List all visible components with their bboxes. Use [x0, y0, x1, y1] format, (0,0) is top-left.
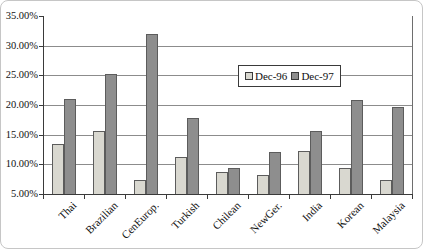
x-axis-tick — [371, 195, 372, 199]
y-axis-label-5: 5.00% — [0, 188, 38, 200]
bar-dec-97-thai — [64, 99, 76, 194]
bar-dec-97-chilean — [228, 168, 240, 194]
bar-dec-97-turkish — [187, 118, 199, 194]
bar-dec-96-malaysia — [380, 180, 392, 194]
bar-dec-96-india — [298, 151, 310, 194]
legend-entry-dec-97: Dec-97 — [291, 70, 333, 82]
x-label-brazilian: Brazilian — [82, 199, 119, 236]
bar-dec-96-brazilian — [93, 131, 105, 194]
x-axis-tick — [43, 195, 44, 199]
x-label-thai: Thai — [56, 199, 79, 222]
y-axis-label-15: 15.00% — [0, 129, 38, 141]
y-axis-line — [43, 16, 44, 195]
y-axis-tick — [39, 135, 43, 136]
y-axis-label-20: 20.00% — [0, 99, 38, 111]
gridline — [43, 46, 412, 47]
bar-dec-96-chilean — [216, 172, 228, 194]
x-label-newger: NewGer. — [247, 199, 283, 235]
x-label-chilean: Chilean — [210, 199, 243, 232]
legend: Dec-96Dec-97 — [238, 65, 341, 87]
y-axis-tick — [39, 16, 43, 17]
bar-dec-97-malaysia — [392, 107, 404, 194]
x-label-korean: Korean — [334, 199, 365, 230]
y-axis-tick — [39, 75, 43, 76]
x-label-turkish: Turkish — [169, 199, 201, 231]
x-label-ceneurop: CenEurop. — [119, 199, 161, 241]
bar-dec-96-thai — [52, 144, 64, 194]
y-axis-label-25: 25.00% — [0, 69, 38, 81]
bar-dec-97-newger — [269, 152, 281, 194]
bar-dec-97-ceneurop — [146, 34, 158, 194]
legend-label-dec-97: Dec-97 — [301, 70, 333, 82]
legend-label-dec-96: Dec-96 — [255, 70, 287, 82]
y-axis-tick — [39, 105, 43, 106]
x-axis-tick — [84, 195, 85, 199]
bar-chart: 5.00%10.00%15.00%20.00%25.00%30.00%35.00… — [0, 0, 423, 249]
y-axis-label-10: 10.00% — [0, 158, 38, 170]
bar-dec-97-brazilian — [105, 74, 117, 194]
x-axis-tick — [289, 195, 290, 199]
legend-swatch-dec-96 — [245, 72, 253, 80]
x-axis-tick — [330, 195, 331, 199]
plot-right-border — [412, 16, 413, 194]
y-axis-tick — [39, 46, 43, 47]
legend-swatch-dec-97 — [291, 72, 299, 80]
x-label-malaysia: Malaysia — [369, 199, 406, 236]
gridline — [43, 75, 412, 76]
bar-dec-96-korean — [339, 168, 351, 194]
bar-dec-96-ceneurop — [134, 180, 146, 194]
bar-dec-96-turkish — [175, 157, 187, 194]
y-axis-label-30: 30.00% — [0, 40, 38, 52]
y-axis-label-35: 35.00% — [0, 10, 38, 22]
x-axis-tick — [207, 195, 208, 199]
x-axis-tick — [166, 195, 167, 199]
x-axis-tick — [125, 195, 126, 199]
x-axis-tick — [412, 195, 413, 199]
y-axis-tick — [39, 164, 43, 165]
bar-dec-97-korean — [351, 100, 363, 194]
x-axis-tick — [248, 195, 249, 199]
bar-dec-96-newger — [257, 175, 269, 194]
x-axis-line — [43, 194, 413, 195]
bar-dec-97-india — [310, 131, 322, 194]
legend-entry-dec-96: Dec-96 — [245, 70, 287, 82]
x-label-india: India — [300, 199, 324, 223]
